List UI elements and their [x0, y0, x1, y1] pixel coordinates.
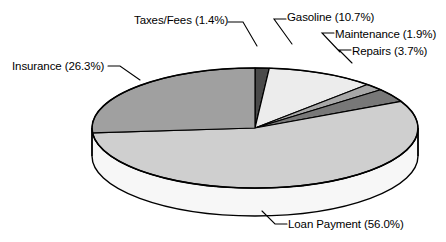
leader-line-insurance: [108, 66, 140, 80]
pie-slice-insurance[interactable]: [92, 68, 255, 133]
pie-label-loan-payment: Loan Payment (56.0%): [288, 218, 404, 230]
pie-slices-top-face: [92, 68, 418, 188]
pie-label-taxes-fees: Taxes/Fees (1.4%): [134, 14, 228, 26]
pie-label-gasoline: Gasoline (10.7%): [287, 11, 374, 23]
leader-line-taxes-fees: [228, 22, 257, 46]
pie-chart-figure: Taxes/Fees (1.4%) Gasoline (10.7%) Maint…: [0, 0, 446, 242]
pie-label-repairs: Repairs (3.7%): [352, 45, 427, 57]
leader-line-repairs: [339, 50, 352, 63]
pie-label-maintenance: Maintenance (1.9%): [335, 28, 436, 40]
pie-label-insurance: Insurance (26.3%): [12, 60, 104, 72]
